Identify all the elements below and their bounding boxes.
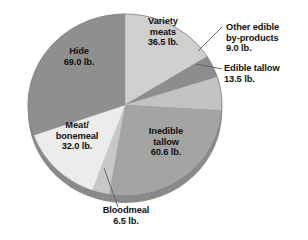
- leader-line-other-edible-byproducts: [198, 27, 222, 51]
- slice-label-meat-bonemeal: Meat/ bonemeal 32.0 lb.: [42, 120, 112, 152]
- callout-label-other-edible-byproducts: Other edible by-products 9.0 lb.: [226, 22, 306, 54]
- callout-label-edible-tallow: Edible tallow 13.5 lb.: [224, 63, 308, 84]
- slice-label-hide: Hide 69.0 lb.: [46, 46, 112, 67]
- cropped-text-fragment: ble: [0, 197, 18, 208]
- slice-label-inedible-tallow: Inedible tallow 60.6 lb.: [133, 126, 199, 158]
- callout-label-bloodmeal: Bloodmeal 6.5 lb.: [86, 205, 166, 226]
- pie-chart-figure: Variety meats 36.5 lb. Hide 69.0 lb. Mea…: [0, 0, 308, 240]
- slice-label-variety-meats: Variety meats 36.5 lb.: [132, 16, 194, 48]
